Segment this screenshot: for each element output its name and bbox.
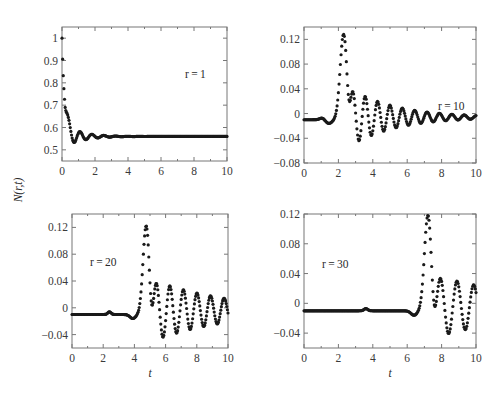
x-tick-label: 6: [158, 165, 164, 177]
radius-annotation: r = 30: [322, 258, 349, 270]
x-tick-label: 2: [336, 352, 342, 364]
y-tick-label: 0.04: [280, 268, 300, 280]
y-tick-label: −0.04: [273, 132, 300, 144]
x-tick-label: 8: [439, 167, 445, 179]
y-tick-label: 0.9: [44, 55, 59, 67]
x-tick-label: 2: [336, 167, 342, 179]
y-tick-label: 0.08: [280, 58, 300, 70]
x-tick-label: 0: [301, 352, 307, 364]
x-tick-label: 4: [132, 352, 138, 364]
x-tick-label: 0: [69, 352, 75, 364]
panel-r10: 0246810−0.08−0.0400.040.080.12r = 10: [273, 27, 482, 179]
x-tick-label: 10: [221, 165, 233, 177]
y-tick-label: −0.04: [273, 327, 300, 339]
y-tick-label: 0.5: [44, 144, 59, 156]
x-tick-label: 4: [370, 167, 376, 179]
plot-frame: [72, 214, 228, 348]
x-axis-label-right: t: [388, 367, 392, 379]
y-tick-label: 0.6: [44, 122, 59, 134]
x-tick-label: 6: [404, 352, 410, 364]
panel-r20: 0246810−0.0400.040.080.12r = 20: [41, 214, 234, 364]
panel-r30: 0246810−0.0400.040.080.12r = 30: [273, 208, 482, 364]
y-tick-label: 0.04: [48, 275, 68, 287]
x-tick-label: 4: [370, 352, 376, 364]
y-tick-label: 0.7: [44, 99, 59, 111]
x-axis-label-left: t: [148, 367, 152, 379]
x-tick-label: 0: [59, 165, 65, 177]
radius-annotation: r = 1: [185, 68, 206, 80]
x-tick-label: 10: [470, 352, 482, 364]
y-tick-label: 0: [62, 302, 68, 314]
x-tick-label: 0: [301, 167, 307, 179]
panel-r1: 02468100.50.60.70.80.91r = 1: [44, 27, 233, 177]
y-tick-label: 0.04: [280, 83, 300, 95]
x-tick-label: 8: [439, 352, 445, 364]
x-tick-label: 2: [92, 165, 98, 177]
y-tick-label: 0.08: [280, 238, 300, 250]
x-tick-label: 6: [163, 352, 169, 364]
y-tick-label: −0.04: [41, 329, 68, 341]
y-tick-label: 0.8: [44, 77, 59, 89]
y-tick-label: 0: [294, 297, 300, 309]
x-tick-label: 8: [191, 165, 197, 177]
figure: 02468100.50.60.70.80.91r = 1 0246810−0.0…: [0, 0, 503, 396]
y-tick-label: −0.08: [273, 157, 300, 169]
y-tick-label: 0.12: [280, 208, 300, 220]
radius-annotation: r = 10: [438, 100, 465, 112]
plot-frame: [304, 27, 476, 163]
x-tick-label: 10: [222, 352, 234, 364]
x-tick-label: 4: [125, 165, 131, 177]
y-tick-label: 0.12: [280, 33, 300, 45]
y-tick-label: 0: [294, 108, 300, 120]
radius-annotation: r = 20: [90, 256, 117, 268]
y-axis-label: N(r,t): [12, 178, 25, 204]
x-tick-label: 10: [470, 167, 482, 179]
y-tick-label: 0.12: [48, 221, 68, 233]
x-tick-label: 2: [100, 352, 106, 364]
x-tick-label: 8: [194, 352, 200, 364]
y-tick-label: 1: [52, 32, 58, 44]
x-tick-label: 6: [404, 167, 410, 179]
y-tick-label: 0.08: [48, 248, 68, 260]
